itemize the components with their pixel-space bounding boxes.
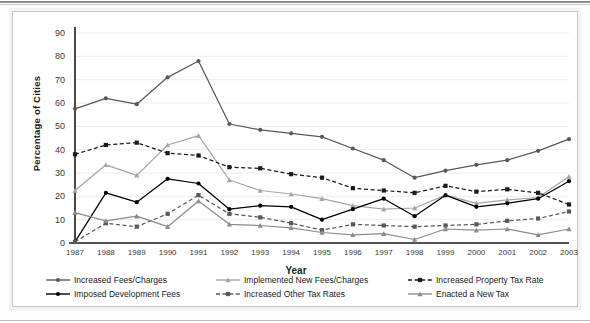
data-point [258,128,262,132]
data-point [135,225,139,229]
line-chart-svg [13,12,579,262]
data-point [104,191,108,195]
legend-item[interactable]: Increased Property Tax Rate [407,274,544,285]
data-point [382,158,386,162]
data-point [103,162,108,167]
data-point [227,212,231,216]
legend-swatch-triangle-icon [215,275,241,285]
data-point [166,212,170,216]
legend-swatch-circle-icon [45,275,71,285]
data-point [258,215,262,219]
series-line [75,143,569,205]
data-point [351,186,355,190]
legend-swatch-square-icon [215,289,241,299]
legend-label: Increased Other Tax Rates [244,289,345,299]
data-point [536,191,540,195]
data-point [166,75,170,79]
data-point [227,165,231,169]
data-point [505,187,509,191]
data-point [413,214,417,218]
data-point [196,133,201,138]
data-point [320,135,324,139]
data-point [536,216,540,220]
data-point [505,219,509,223]
data-point [413,225,417,229]
data-point [196,59,200,63]
data-point [196,153,200,157]
data-point [567,179,571,183]
data-point [135,200,139,204]
top-divider [0,1,590,3]
data-point [382,197,386,201]
data-point [505,201,509,205]
data-point [382,188,386,192]
series-line [75,61,569,178]
data-point [73,240,77,244]
data-point [567,209,571,213]
data-point [166,151,170,155]
legend-item[interactable]: Implemented New Fees/Charges [215,274,368,285]
data-point [166,177,170,181]
data-point [104,143,108,147]
data-point [382,223,386,227]
data-point [196,181,200,185]
data-point [73,152,77,156]
data-point [474,205,478,209]
legend-swatch-triangle-icon [407,289,433,299]
series-1 [72,133,571,211]
data-point [443,193,447,197]
data-point [567,202,571,206]
data-point [443,169,447,173]
legend-item[interactable]: Enacted a New Tax [407,288,509,299]
data-point [135,141,139,145]
legend-label: Implemented New Fees/Charges [244,275,368,285]
legend-label: Increased Fees/Charges [74,275,167,285]
data-point [351,222,355,226]
chart-legend: Increased Fees/ChargesImposed Developmen… [27,274,575,304]
chart-panel: Percentage of Cities 0102030405060708090… [12,11,578,307]
data-point [413,191,417,195]
data-point [135,102,139,106]
data-point [196,198,201,203]
chart-page: Percentage of Cities 0102030405060708090… [0,0,590,323]
plot-area: Percentage of Cities 0102030405060708090… [13,12,579,308]
data-point [351,207,355,211]
data-point [72,210,77,215]
legend-label: Imposed Development Fees [74,289,180,299]
data-point [227,122,231,126]
legend-item[interactable]: Imposed Development Fees [45,288,180,299]
data-point [505,158,509,162]
data-point [289,131,293,135]
data-point [258,166,262,170]
data-point [73,107,77,111]
data-point [567,137,571,141]
series-0 [73,59,571,180]
data-point [536,197,540,201]
data-point [289,221,293,225]
data-point [289,205,293,209]
legend-label: Increased Property Tax Rate [436,275,544,285]
data-point [258,204,262,208]
top-divider-secondary [0,4,590,5]
data-point [566,174,571,179]
legend-swatch-square-icon [407,275,433,285]
data-point [536,149,540,153]
data-point [474,163,478,167]
data-point [474,222,478,226]
legend-item[interactable]: Increased Fees/Charges [45,274,167,285]
data-point [196,193,200,197]
legend-label: Enacted a New Tax [436,289,509,299]
data-point [320,218,324,222]
legend-item[interactable]: Increased Other Tax Rates [215,288,345,299]
data-point [443,184,447,188]
data-point [320,176,324,180]
bottom-divider [0,320,590,321]
data-point [474,190,478,194]
data-point [104,96,108,100]
data-point [289,172,293,176]
data-point [413,176,417,180]
data-point [227,207,231,211]
legend-swatch-circle-icon [45,289,71,299]
data-point [351,146,355,150]
